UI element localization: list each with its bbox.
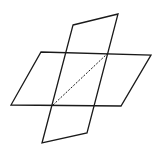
intersecting-planes-diagram xyxy=(0,0,159,153)
intersection-line xyxy=(53,54,107,105)
horizontal-plane xyxy=(11,52,151,106)
vertical-plane xyxy=(42,14,118,143)
